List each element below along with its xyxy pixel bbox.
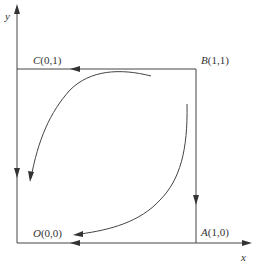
trajectory-upper-left: [31, 72, 151, 178]
edge-c-b-arrow-icon: [70, 66, 80, 72]
edge-a-o-arrow-icon: [70, 240, 80, 246]
x-axis-label: x: [241, 252, 246, 263]
point-a-label: A(1,0): [201, 227, 229, 238]
point-a-coords: (1,0): [208, 226, 229, 238]
trajectory-lower-right-arrow-icon: [73, 231, 83, 237]
edge-c-o-arrow-icon: [14, 168, 20, 178]
point-c-label: C(0,1): [33, 55, 61, 66]
phase-diagram: y x C(0,1) B(1,1) O(0,0) A(1,0): [0, 0, 256, 266]
point-o-name: O: [33, 227, 41, 239]
edge-b-a-arrow-icon: [193, 195, 199, 205]
x-axis-arrow-icon: [242, 240, 252, 246]
trajectory-upper-left-arrow-icon: [28, 171, 34, 182]
point-a-name: A: [201, 226, 208, 238]
point-b-label: B(1,1): [201, 55, 229, 66]
point-b-coords: (1,1): [208, 54, 229, 66]
y-axis-label: y: [5, 11, 10, 22]
point-b-name: B: [201, 54, 208, 66]
point-o-label: O(0,0): [33, 228, 62, 239]
point-c-coords: (0,1): [40, 54, 61, 66]
point-o-coords: (0,0): [41, 227, 62, 239]
trajectory-lower-right: [80, 104, 187, 234]
y-axis-arrow-icon: [14, 4, 20, 14]
